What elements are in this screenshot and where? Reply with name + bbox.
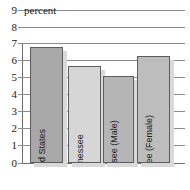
bar-body: Tennessee <box>68 66 101 163</box>
bar-tennessee[interactable]: Tennessee <box>68 66 101 163</box>
bar-label-united-states: United States <box>38 129 47 163</box>
bar-united-states[interactable]: United States <box>30 47 63 163</box>
bar-label-tennessee-female: Tennessee (Female) <box>145 115 154 163</box>
bar-label-tennessee-male: Tennessee (Male) <box>110 120 119 163</box>
bar-body: Tennessee (Male) <box>103 76 134 163</box>
bar-chart: 9 8 7 6 5 4 3 2 1 0 percent United State… <box>0 0 190 190</box>
bar-body: United States <box>30 47 63 163</box>
bar-tennessee-female[interactable]: Tennessee (Female) <box>137 56 170 163</box>
bar-body: Tennessee (Female) <box>137 56 170 163</box>
bar-tennessee-male[interactable]: Tennessee (Male) <box>103 76 134 163</box>
bars-layer: United States Tennessee Tennessee (Male)… <box>0 0 190 190</box>
bar-label-tennessee: Tennessee <box>76 134 85 163</box>
